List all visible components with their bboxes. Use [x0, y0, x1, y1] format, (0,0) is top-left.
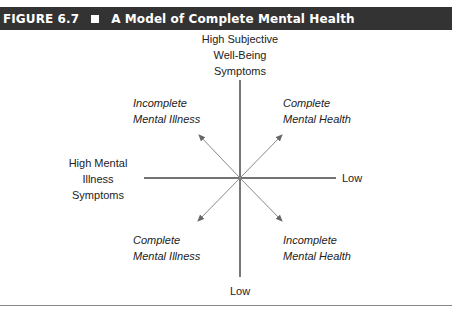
- bottom-rule: [0, 305, 452, 306]
- bottom-axis-label: Low: [220, 283, 260, 299]
- left-label-line-2: Illness: [58, 171, 138, 187]
- left-label-line-1: High Mental: [58, 155, 138, 171]
- top-axis-label: High Subjective Well-Being Symptoms: [180, 31, 300, 79]
- quadrant-upper-left: Incomplete Mental Illness: [133, 95, 200, 127]
- arrow-upper-right: [240, 135, 282, 178]
- left-axis-label: High Mental Illness Symptoms: [58, 155, 138, 203]
- quadrant-lower-right-line-2: Mental Health: [283, 248, 351, 264]
- top-label-line-2: Well-Being: [180, 47, 300, 63]
- quadrant-lower-right: Incomplete Mental Health: [283, 232, 351, 264]
- arrow-upper-left: [199, 135, 240, 178]
- arrow-lower-left: [198, 178, 240, 221]
- quadrant-lower-right-line-1: Incomplete: [283, 232, 351, 248]
- arrow-lower-right: [240, 178, 282, 221]
- quadrant-upper-right: Complete Mental Health: [283, 95, 351, 127]
- right-axis-label: Low: [342, 170, 362, 186]
- top-label-line-3: Symptoms: [180, 63, 300, 79]
- top-label-line-1: High Subjective: [180, 31, 300, 47]
- quadrant-lower-left-line-1: Complete: [133, 232, 200, 248]
- quadrant-upper-left-line-1: Incomplete: [133, 95, 200, 111]
- quadrant-lower-left-line-2: Mental Illness: [133, 248, 200, 264]
- quadrant-upper-right-line-1: Complete: [283, 95, 351, 111]
- quadrant-lower-left: Complete Mental Illness: [133, 232, 200, 264]
- quadrant-upper-right-line-2: Mental Health: [283, 111, 351, 127]
- quadrant-upper-left-line-2: Mental Illness: [133, 111, 200, 127]
- left-label-line-3: Symptoms: [58, 187, 138, 203]
